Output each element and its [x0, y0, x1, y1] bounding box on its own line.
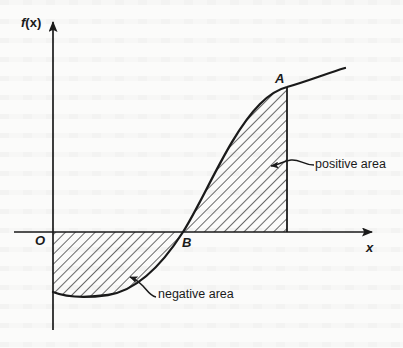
- point-label-b: B: [182, 236, 191, 249]
- point-label-a: A: [275, 72, 284, 85]
- positive-area-label: positive area: [315, 158, 386, 171]
- positive-area-hatch: [150, 60, 330, 260]
- origin-label: O: [35, 234, 45, 247]
- x-axis-label: x: [366, 241, 373, 254]
- negative-area-label: negative area: [158, 288, 234, 301]
- y-axis-label: f(x): [21, 16, 41, 29]
- figure-canvas: f(x) x O A B positive area negative area: [0, 0, 403, 348]
